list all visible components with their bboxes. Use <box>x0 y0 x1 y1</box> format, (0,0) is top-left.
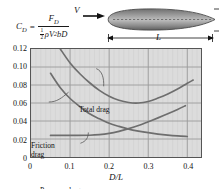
curve-0 <box>60 49 193 103</box>
y-tick-0.08: 0.08 <box>13 80 27 89</box>
x-tick-0: 0 <box>28 162 32 171</box>
x-tick-0.2: 0.2 <box>104 162 114 171</box>
equation-equals-sign: = <box>30 22 35 32</box>
x-tick-0.3: 0.3 <box>144 162 154 171</box>
equation-denominator: 1 2 ρV2bD <box>38 27 70 40</box>
leader-line-2 <box>80 132 88 143</box>
annotation-friction-drag-line2: drag <box>31 150 44 159</box>
equation-fraction: FD 1 2 ρV2bD <box>38 14 70 40</box>
x-axis-title: D/L <box>109 172 123 182</box>
drag-coefficient-chart: 00.020.040.060.080.100.12 00.10.20.30.4 … <box>0 46 219 189</box>
streamlined-body-diagram: V L <box>74 2 217 44</box>
y-tick-0.10: 0.10 <box>13 62 27 71</box>
streamlined-body-icon <box>107 8 217 31</box>
x-tick-0.1: 0.1 <box>65 162 75 171</box>
annotation-pressure-drag: Pressure drag <box>40 187 81 189</box>
one-half-fraction: 1 2 <box>40 28 44 40</box>
y-tick-0.06: 0.06 <box>13 99 27 108</box>
equation-lhs: CD <box>16 21 27 33</box>
curve-2 <box>51 106 186 136</box>
velocity-label: V <box>74 5 80 15</box>
drag-coefficient-equation: CD = FD 1 2 ρV2bD <box>16 14 69 40</box>
y-tick-0.04: 0.04 <box>13 117 27 126</box>
right-arrow-icon <box>83 13 105 19</box>
equation-numerator: FD <box>46 14 62 26</box>
length-label: L <box>156 32 161 42</box>
y-tick-0.02: 0.02 <box>13 135 27 144</box>
plot-area <box>30 48 202 158</box>
x-tick-0.4: 0.4 <box>183 162 193 171</box>
y-axis-tick-labels: 00.020.040.060.080.100.12 <box>0 46 28 162</box>
annotation-friction-drag: Friction drag <box>31 142 55 159</box>
leader-line-0 <box>96 69 103 87</box>
plot-canvas <box>31 49 201 157</box>
figure-root: CD = FD 1 2 ρV2bD V <box>0 0 219 189</box>
y-tick-0.12: 0.12 <box>13 44 27 53</box>
diameter-dimension-line <box>214 6 219 34</box>
annotation-total-drag: Total drag <box>79 106 110 115</box>
